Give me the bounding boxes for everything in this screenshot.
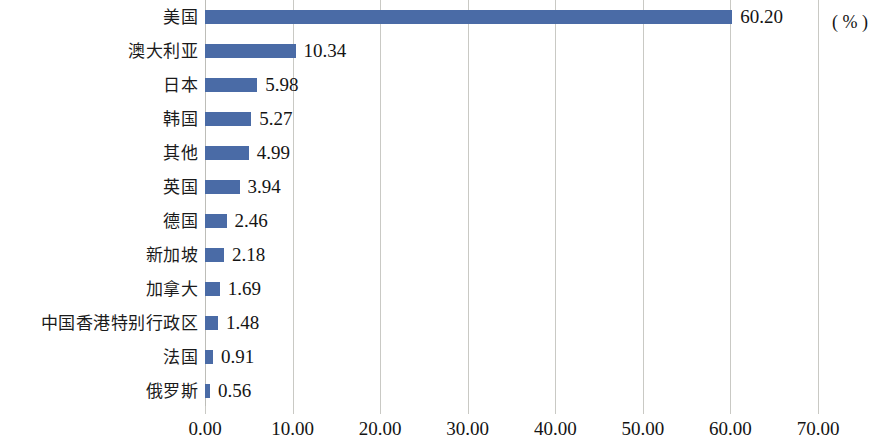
x-tick-label: 50.00 [603, 418, 683, 440]
category-label: 德国 [0, 204, 198, 238]
bar-row: 中国香港特别行政区1.48 [0, 306, 888, 340]
bar [205, 112, 251, 126]
bar [205, 180, 240, 194]
category-label: 俄罗斯 [0, 374, 198, 408]
bar-value-label: 2.18 [232, 238, 265, 272]
x-tick-label: 70.00 [778, 418, 858, 440]
x-tick-mark [730, 406, 731, 414]
x-tick-mark [468, 406, 469, 414]
bar-row: 英国3.94 [0, 170, 888, 204]
x-tick-mark [205, 406, 206, 414]
category-label: 澳大利亚 [0, 34, 198, 68]
category-label: 中国香港特别行政区 [0, 306, 198, 340]
bar-value-label: 1.48 [226, 306, 259, 340]
x-tick-mark [555, 406, 556, 414]
axis-unit-label: ( % ) [832, 12, 868, 33]
bar [205, 282, 220, 296]
category-label: 美国 [0, 0, 198, 34]
x-tick-mark [643, 406, 644, 414]
bar-row: 德国2.46 [0, 204, 888, 238]
bar-row: 韩国5.27 [0, 102, 888, 136]
bar-row: 日本5.98 [0, 68, 888, 102]
bar-value-label: 4.99 [257, 136, 290, 170]
x-tick-mark [380, 406, 381, 414]
bar-row: 其他4.99 [0, 136, 888, 170]
bar [205, 316, 218, 330]
category-label: 英国 [0, 170, 198, 204]
bar-row: 加拿大1.69 [0, 272, 888, 306]
x-tick-label: 40.00 [515, 418, 595, 440]
x-tick-mark [293, 406, 294, 414]
bar-row: 法国0.91 [0, 340, 888, 374]
bar-value-label: 5.98 [265, 68, 298, 102]
bar-row: 美国60.20 [0, 0, 888, 34]
category-label: 日本 [0, 68, 198, 102]
bar [205, 78, 257, 92]
bar-value-label: 2.46 [235, 204, 268, 238]
horizontal-bar-chart: 美国60.20澳大利亚10.34日本5.98韩国5.27其他4.99英国3.94… [0, 0, 888, 446]
bar [205, 10, 732, 24]
bar-row: 新加坡2.18 [0, 238, 888, 272]
x-axis: 0.0010.0020.0030.0040.0050.0060.0070.00 [0, 406, 888, 446]
x-tick-label: 30.00 [428, 418, 508, 440]
category-label: 法国 [0, 340, 198, 374]
bar-value-label: 0.91 [221, 340, 254, 374]
x-tick-label: 20.00 [340, 418, 420, 440]
bar [205, 44, 296, 58]
bar-row: 俄罗斯0.56 [0, 374, 888, 408]
bar-value-label: 5.27 [259, 102, 292, 136]
x-tick-mark [818, 406, 819, 414]
bar [205, 214, 227, 228]
category-label: 其他 [0, 136, 198, 170]
bar [205, 248, 224, 262]
category-label: 韩国 [0, 102, 198, 136]
bar-row: 澳大利亚10.34 [0, 34, 888, 68]
bar [205, 350, 213, 364]
x-tick-label: 60.00 [690, 418, 770, 440]
category-label: 加拿大 [0, 272, 198, 306]
bar-value-label: 10.34 [304, 34, 347, 68]
bar-value-label: 0.56 [218, 374, 251, 408]
bar [205, 384, 210, 398]
category-label: 新加坡 [0, 238, 198, 272]
bar [205, 146, 249, 160]
bar-value-label: 1.69 [228, 272, 261, 306]
bar-value-label: 3.94 [248, 170, 281, 204]
x-tick-label: 10.00 [253, 418, 333, 440]
bar-value-label: 60.20 [740, 0, 783, 34]
x-tick-label: 0.00 [165, 418, 245, 440]
